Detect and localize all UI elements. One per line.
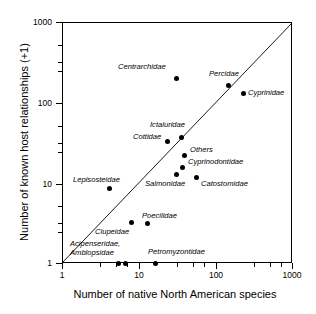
data-point xyxy=(174,172,179,177)
data-point xyxy=(145,221,150,226)
data-point-label: Salmonidae xyxy=(145,180,185,189)
data-point xyxy=(174,76,179,81)
data-point-label: Centrarchidae xyxy=(118,63,166,72)
data-point xyxy=(153,261,158,266)
y-minor-tick xyxy=(58,143,62,144)
data-point xyxy=(226,83,231,88)
x-tick-label: 100 xyxy=(196,271,236,280)
y-minor-tick xyxy=(58,71,62,72)
x-tick-label: 1 xyxy=(42,271,82,280)
data-point-label: Lepisosteidae xyxy=(73,176,120,185)
data-point-label: Others xyxy=(190,146,213,155)
y-minor-tick xyxy=(58,126,62,127)
data-point-label: Cyprinidae xyxy=(248,89,284,98)
data-point xyxy=(179,135,184,140)
y-minor-tick xyxy=(58,62,62,63)
data-point xyxy=(194,175,199,180)
y-minor-tick xyxy=(58,232,62,233)
data-point xyxy=(107,186,112,191)
data-point-label: Percidae xyxy=(209,70,239,79)
data-point-label: Acipenseridae, Amblopsidae xyxy=(70,240,120,257)
x-minor-tick xyxy=(193,263,194,267)
x-axis-title: Number of native North American species xyxy=(40,288,310,300)
data-point-label: Poecilidae xyxy=(142,212,177,221)
data-point-label: Cottidae xyxy=(133,133,161,142)
y-tick-mark xyxy=(56,184,62,185)
y-minor-tick xyxy=(58,45,62,46)
x-tick-label: 1000 xyxy=(272,271,312,280)
x-minor-tick xyxy=(254,263,255,267)
scatter-plot-figure: 10001001011101001000CentrarchidaePercida… xyxy=(0,0,316,314)
y-minor-tick xyxy=(58,223,62,224)
data-point-label: Clupeidae xyxy=(95,228,129,237)
data-point xyxy=(241,91,246,96)
y-tick-mark xyxy=(56,22,62,23)
data-point-label: Catostomidae xyxy=(201,180,248,189)
x-tick-mark xyxy=(139,263,140,269)
x-minor-tick xyxy=(204,263,205,267)
data-point xyxy=(123,261,128,266)
data-point-label: Petromyzontidae xyxy=(148,248,205,257)
data-point-label: Ictaluridae xyxy=(150,121,185,130)
x-minor-tick xyxy=(281,263,282,267)
data-point xyxy=(180,165,185,170)
x-minor-tick xyxy=(100,263,101,267)
x-tick-mark xyxy=(292,263,293,269)
y-minor-tick xyxy=(58,152,62,153)
data-point-label: Cyprinodontidae xyxy=(188,158,243,167)
data-point xyxy=(165,139,170,144)
x-tick-mark xyxy=(216,263,217,269)
y-tick-mark xyxy=(56,103,62,104)
x-tick-label: 10 xyxy=(119,271,159,280)
y-axis-title: Number of known host relationships (+1) xyxy=(18,12,30,272)
x-minor-tick xyxy=(177,263,178,267)
y-minor-tick xyxy=(58,206,62,207)
x-tick-mark xyxy=(62,263,63,269)
data-point xyxy=(116,261,121,266)
x-minor-tick xyxy=(270,263,271,267)
data-point xyxy=(129,220,134,225)
data-point xyxy=(182,153,187,158)
